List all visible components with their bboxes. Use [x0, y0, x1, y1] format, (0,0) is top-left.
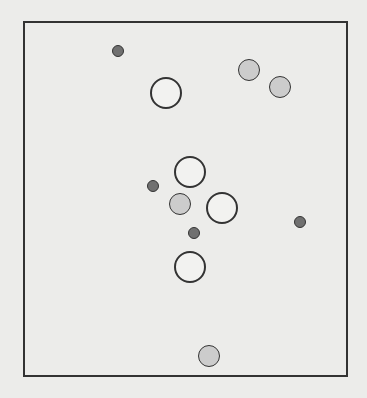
gray-circle	[238, 59, 260, 81]
gray-circle	[169, 193, 191, 215]
dark-circle	[112, 45, 124, 57]
dark-circle	[147, 180, 159, 192]
white-circle	[206, 192, 238, 224]
white-circle	[174, 156, 206, 188]
dark-circle	[294, 216, 306, 228]
dark-circle	[188, 227, 200, 239]
gray-circle	[269, 76, 291, 98]
white-circle	[174, 251, 206, 283]
white-circle	[150, 77, 182, 109]
gray-circle	[198, 345, 220, 367]
